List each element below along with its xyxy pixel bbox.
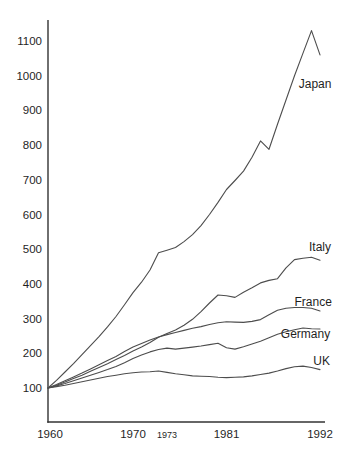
x-tick-label-1960: 1960 [37,428,63,440]
y-tick-label-700: 700 [23,174,42,186]
series-label-japan: Japan [299,77,332,91]
x-tick-label-1970: 1970 [120,428,146,440]
y-tick-label-200: 200 [23,347,42,359]
y-tick-label-400: 400 [23,278,42,290]
y-tick-label-300: 300 [23,313,42,325]
series-line-italy [48,257,320,388]
series-label-uk: UK [313,354,330,368]
y-tick-label-1000: 1000 [16,70,42,82]
y-tick-label-800: 800 [23,139,42,151]
x-tick-label-1973: 1973 [157,430,177,440]
series-label-germany: Germany [281,327,330,341]
line-chart: 1002003004005006007008009001000110019601… [0,0,352,461]
series-line-germany [48,328,320,388]
y-tick-label-600: 600 [23,209,42,221]
series-label-italy: Italy [309,240,331,254]
y-tick-label-1100: 1100 [17,35,42,47]
y-tick-label-500: 500 [23,243,42,255]
line-chart-figure: 1002003004005006007008009001000110019601… [0,0,352,461]
y-tick-label-900: 900 [23,104,42,116]
x-tick-label-1992: 1992 [307,428,333,440]
series-label-france: France [295,295,333,309]
series-line-japan [48,31,320,388]
y-tick-label-100: 100 [23,382,42,394]
x-tick-label-1981: 1981 [214,428,240,440]
